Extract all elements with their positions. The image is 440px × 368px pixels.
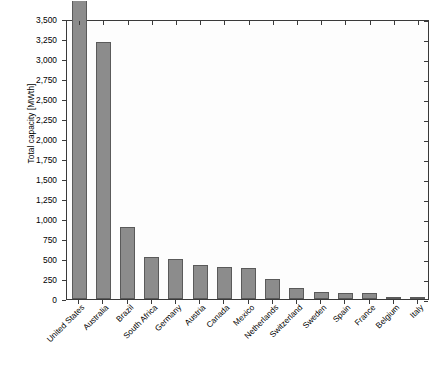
x-axis-tick-label: Australia [82, 303, 111, 332]
y-axis-tick-label: 3,000 [36, 55, 57, 65]
top-axis-tick [176, 21, 177, 25]
top-axis-tick [79, 21, 80, 25]
bar-series: 12,455.5 [67, 21, 428, 299]
bar [338, 293, 353, 299]
x-axis-tick-label: Spain [331, 303, 352, 324]
top-axis-tick [370, 21, 371, 25]
y-axis-tick-label: 3,250 [36, 35, 57, 45]
bar [217, 267, 232, 299]
bar-chart: Total capacity [MWth] 02505007501,0001,2… [0, 0, 440, 368]
top-axis-tick [297, 21, 298, 25]
y-axis-tick-label: 3,500 [36, 15, 57, 25]
bar [314, 292, 329, 299]
x-axis-tick-label: Austria [183, 303, 207, 327]
bar-slot [96, 21, 111, 299]
bar-slot [289, 21, 304, 299]
bar [265, 279, 280, 299]
right-axis-tick [424, 181, 428, 182]
right-axis-tick [424, 121, 428, 122]
right-axis-tick [424, 221, 428, 222]
bar-slot [410, 21, 425, 299]
bar [410, 297, 425, 299]
bar [362, 293, 377, 299]
top-axis-tick [345, 21, 346, 25]
bar-slot [144, 21, 159, 299]
y-axis-tick-label: 500 [43, 255, 57, 265]
bar-slot [338, 21, 353, 299]
x-axis-labels: United StatesAustraliaBrazilSouth Africa… [66, 300, 429, 368]
y-axis-tick-label: 2,750 [36, 75, 57, 85]
x-axis-tick-label: Brazil [114, 303, 135, 324]
y-axis-tick-label: 1,250 [36, 195, 57, 205]
bar-slot [120, 21, 135, 299]
y-axis-tick-label: 1,500 [36, 175, 57, 185]
y-axis-tick-label: 1,000 [36, 215, 57, 225]
bar [289, 288, 304, 299]
right-axis-tick [424, 241, 428, 242]
bar-slot [386, 21, 401, 299]
bar [241, 268, 256, 299]
right-axis-tick [424, 161, 428, 162]
right-axis-tick [424, 41, 428, 42]
y-axis-tick-label: 0 [52, 295, 57, 305]
right-axis-tick [424, 61, 428, 62]
right-axis-tick [424, 21, 428, 22]
y-axis-tick-label: 2,000 [36, 135, 57, 145]
y-axis-tick-label: 750 [43, 235, 57, 245]
y-axis-ticks: 02505007501,0001,2501,5001,7502,0002,250… [0, 20, 66, 300]
bar-slot [362, 21, 377, 299]
bar-slot: 12,455.5 [72, 21, 87, 299]
right-axis-tick [424, 141, 428, 142]
top-axis-tick [128, 21, 129, 25]
bar [120, 227, 135, 299]
right-axis-tick [424, 201, 428, 202]
bar [96, 42, 111, 299]
top-axis-tick [103, 21, 104, 25]
bar-slot [265, 21, 280, 299]
bar [168, 259, 183, 299]
bar-slot [314, 21, 329, 299]
bar [386, 297, 401, 299]
top-axis-tick [418, 21, 419, 25]
top-axis-tick [321, 21, 322, 25]
right-axis-tick [424, 261, 428, 262]
top-axis-tick [249, 21, 250, 25]
bar-slot [193, 21, 208, 299]
top-axis-tick [273, 21, 274, 25]
x-axis-tick-label: Belgium [374, 303, 401, 330]
right-axis-tick [424, 101, 428, 102]
bar [144, 257, 159, 299]
y-axis-tick-label: 1,750 [36, 155, 57, 165]
bar [193, 265, 208, 299]
x-axis-tick-label: Canada [205, 303, 232, 330]
top-axis-tick [200, 21, 201, 25]
x-axis-tick-label: Sweden [301, 303, 328, 330]
top-axis-tick [152, 21, 153, 25]
top-axis-tick [394, 21, 395, 25]
x-axis-tick-label: United States [45, 303, 86, 344]
y-axis-tick-label: 2,250 [36, 115, 57, 125]
plot-area: 12,455.5 [66, 20, 429, 300]
y-axis-tick-label: 2,500 [36, 95, 57, 105]
top-axis-tick [224, 21, 225, 25]
y-axis-tick-label: 250 [43, 275, 57, 285]
x-axis-tick-label: Italy [408, 303, 425, 320]
bar-slot [217, 21, 232, 299]
bar-slot [241, 21, 256, 299]
bar-slot [168, 21, 183, 299]
right-axis-tick [424, 281, 428, 282]
bar [72, 1, 87, 299]
right-axis-tick [424, 81, 428, 82]
